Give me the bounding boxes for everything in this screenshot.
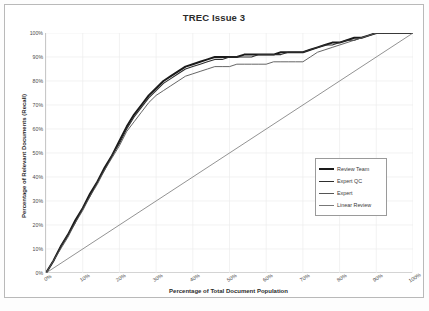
legend-line-icon (319, 181, 334, 182)
plot-area: 0%10%20%30%40%50%60%70%80%90%100% 0%10%2… (45, 33, 412, 273)
x-axis-tick-label: 30% (152, 272, 164, 283)
y-axis-tick-label: 40% (33, 174, 43, 180)
legend-item-label: Expert (337, 190, 353, 196)
chart-title: TREC Issue 3 (5, 12, 423, 23)
y-axis-tick-label: 80% (33, 78, 43, 84)
x-axis-tick-label: 80% (335, 272, 347, 283)
x-axis-tick-label: 40% (188, 272, 200, 283)
x-axis-tick-label: 100% (407, 271, 421, 283)
x-axis-tick-label: 50% (225, 272, 237, 283)
y-axis-tick-label: 0% (36, 270, 44, 276)
y-axis-tick-label: 100% (30, 30, 43, 36)
y-axis-tick-label: 70% (33, 102, 43, 108)
x-axis-tick-label: 10% (78, 272, 90, 283)
legend-item-label: Expert QC (337, 178, 362, 184)
legend-line-icon (319, 193, 334, 194)
y-axis-tick-label: 50% (33, 150, 43, 156)
y-axis-tick-label: 10% (33, 246, 43, 252)
y-axis-tick-label: 60% (33, 126, 43, 132)
x-axis-tick-label: 60% (262, 272, 274, 283)
legend-line-icon (319, 205, 334, 206)
legend-item[interactable]: Expert QC (319, 175, 384, 187)
chart-legend: Review TeamExpert QCExpertLinear Review (315, 158, 387, 216)
chart-container: TREC Issue 3 0%10%20%30%40%50%60%70%80%9… (5, 5, 423, 297)
y-axis-tick-label: 20% (33, 222, 43, 228)
legend-item[interactable]: Linear Review (319, 199, 384, 211)
x-axis-title: Percentage of Total Document Population (45, 288, 412, 294)
series-line (46, 33, 413, 273)
y-axis-title: Percentage of Relevant Documents (Recall… (21, 66, 27, 246)
x-axis-tick-label: 70% (298, 272, 310, 283)
y-axis-tick-label: 90% (33, 54, 43, 60)
x-axis-tick-label: 20% (115, 272, 127, 283)
x-axis-tick-label: 90% (372, 272, 384, 283)
legend-item[interactable]: Expert (319, 187, 384, 199)
series-layer (46, 33, 413, 273)
x-axis-tick-label: 0% (43, 273, 53, 282)
legend-item-label: Linear Review (337, 202, 371, 208)
scanned-page: TREC Issue 3 0%10%20%30%40%50%60%70%80%9… (0, 0, 429, 311)
legend-item-label: Review Team (337, 166, 369, 172)
legend-item[interactable]: Review Team (319, 163, 384, 175)
legend-line-icon (319, 168, 334, 170)
y-axis-tick-label: 30% (33, 198, 43, 204)
